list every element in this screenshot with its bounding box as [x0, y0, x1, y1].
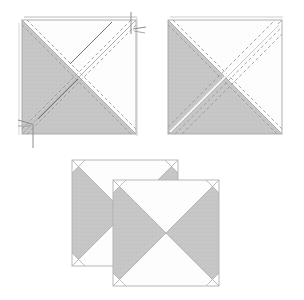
panel-2-square-trimmed	[168, 17, 283, 134]
front-block	[113, 180, 219, 286]
panel-1-square-with-pins	[18, 12, 146, 148]
diagram-canvas: Half-square and quarter-square triangle …	[0, 0, 304, 300]
quilting-diagram: Half-square and quarter-square triangle …	[0, 0, 304, 300]
